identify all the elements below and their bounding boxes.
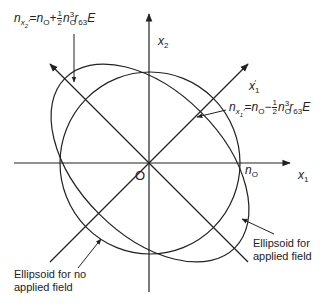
x1-prime-axis-label: x1′ [249, 78, 256, 95]
origin-label: O [135, 168, 145, 183]
annotation-no-field: Ellipsoid for no applied field [14, 268, 86, 294]
equation-n-x2-prime: nx2′=nO+12nO3r63E [14, 10, 95, 29]
n-o-label: nO [245, 163, 258, 179]
pointer-no-field [78, 239, 101, 268]
x1-axis-label: x1 [298, 168, 308, 184]
equation-n-x1-prime: nx1′=nO−12nO3r63E [229, 99, 310, 118]
x2-axis-label: x2 [158, 34, 168, 50]
annotation-applied-field: Ellipsoid for applied field [253, 237, 312, 263]
index-ellipsoid-diagram: nx2′=nO+12nO3r63E nx1′=nO−12nO3r63E x2 x… [0, 0, 323, 304]
